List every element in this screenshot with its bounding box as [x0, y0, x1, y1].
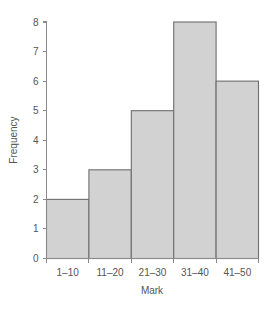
y-tick-label: 6	[33, 76, 39, 87]
y-tick-labels: 012345678	[33, 17, 39, 265]
chart-canvas: 012345678 1–1011–2021–3031–4041–50 Frequ…	[0, 0, 274, 316]
y-tick-label: 7	[33, 46, 39, 57]
y-tick-label: 5	[33, 105, 39, 116]
bar	[216, 81, 258, 258]
x-tick-label: 1–10	[57, 267, 80, 278]
y-tick-label: 2	[33, 194, 39, 205]
x-tick-label: 31–40	[181, 267, 209, 278]
y-tick-label: 0	[33, 253, 39, 264]
x-axis-title: Mark	[141, 285, 164, 296]
y-tick-label: 3	[33, 164, 39, 175]
bar	[47, 199, 89, 258]
x-tick-label: 11–20	[97, 267, 125, 278]
x-tick-label: 41–50	[223, 267, 251, 278]
y-tick-label: 4	[33, 135, 39, 146]
bar	[89, 170, 131, 259]
y-tick-label: 1	[33, 223, 39, 234]
x-tick-label: 21–30	[139, 267, 167, 278]
bar	[131, 111, 173, 259]
bar	[174, 22, 216, 259]
y-tick-label: 8	[33, 17, 39, 28]
y-axis-title: Frequency	[8, 116, 19, 163]
histogram-chart: 012345678 1–1011–2021–3031–4041–50 Frequ…	[0, 0, 274, 316]
